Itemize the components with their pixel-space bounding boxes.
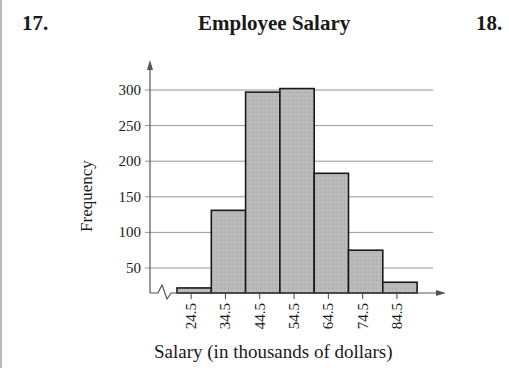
x-axis-arrow-icon [436, 290, 446, 296]
y-tick-label: 150 [119, 189, 142, 205]
x-tick-label: 84.5 [389, 303, 405, 329]
y-tick-label: 50 [126, 260, 141, 276]
histogram-bar [383, 282, 417, 293]
histogram-bar [280, 89, 314, 293]
x-tick-label: 24.5 [183, 303, 199, 329]
x-tick-label: 34.5 [217, 303, 233, 329]
y-tick-label: 250 [119, 118, 142, 134]
x-tick-label: 64.5 [320, 303, 336, 329]
y-axis-label: Frequency [77, 160, 97, 232]
bars [177, 89, 417, 293]
y-tick-label: 200 [119, 153, 142, 169]
histogram-bar [177, 288, 211, 293]
x-tick-label: 74.5 [355, 303, 371, 329]
x-axis-label: Salary (in thousands of dollars) [154, 341, 393, 363]
histogram-bar [211, 210, 245, 293]
y-tick-label: 300 [119, 82, 142, 98]
x-tick-labels: 24.534.544.554.564.574.584.5 [183, 293, 405, 329]
x-tick-label: 54.5 [286, 303, 302, 329]
y-axis-arrow-icon [147, 60, 153, 70]
y-tick-labels: 50100150200250300 [119, 82, 142, 276]
y-tick-label: 100 [119, 224, 142, 240]
histogram-bar [349, 250, 383, 293]
histogram-bar [314, 173, 348, 293]
histogram-bar [246, 92, 280, 293]
x-tick-label: 44.5 [252, 303, 268, 329]
